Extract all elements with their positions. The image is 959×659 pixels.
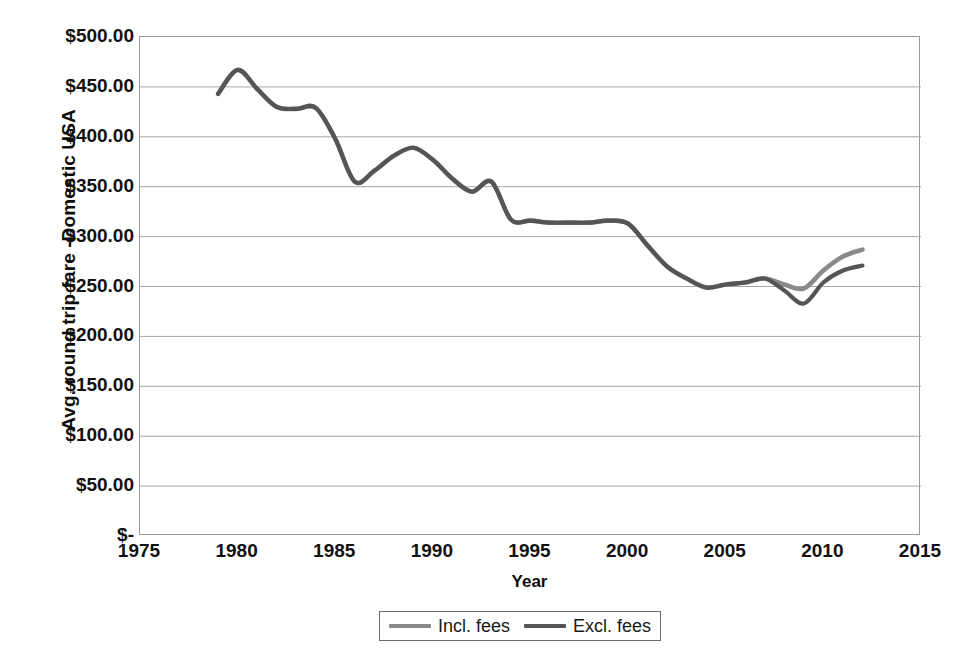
x-axis-tick-label: 1985 xyxy=(289,540,379,562)
chart-container: Avg. round trip fare -Domestic USA $-$50… xyxy=(0,0,959,659)
series-line-incl-fees xyxy=(218,70,862,289)
y-axis-tick-label: $150.00 xyxy=(16,374,134,396)
x-axis-tick-label: 2015 xyxy=(875,540,959,562)
legend-line-swatch xyxy=(524,624,566,628)
x-axis-tick-label: 1975 xyxy=(94,540,184,562)
y-axis-tick-label: $500.00 xyxy=(16,25,134,47)
y-axis-tick-label: $350.00 xyxy=(16,175,134,197)
x-axis-tick-label: 1995 xyxy=(485,540,575,562)
x-axis-tick-label: 2000 xyxy=(582,540,672,562)
x-axis-tick-label: 2005 xyxy=(680,540,770,562)
y-axis-tick-label: $50.00 xyxy=(16,474,134,496)
x-axis-tick-label: 1990 xyxy=(387,540,477,562)
legend-label: Excl. fees xyxy=(573,616,651,637)
legend-line-swatch xyxy=(389,624,431,628)
x-axis-tick-label: 1980 xyxy=(192,540,282,562)
y-axis-tick-label: $250.00 xyxy=(16,275,134,297)
y-axis-tick-label: $200.00 xyxy=(16,324,134,346)
chart-legend: Incl. feesExcl. fees xyxy=(379,611,661,641)
legend-entry[interactable]: Excl. fees xyxy=(524,616,651,637)
x-axis-tick-labels: 197519801985199019952000200520102015 xyxy=(0,540,959,574)
y-axis-tick-label: $400.00 xyxy=(16,125,134,147)
legend-entry[interactable]: Incl. fees xyxy=(389,616,510,637)
x-axis-title: Year xyxy=(139,572,920,592)
legend-label: Incl. fees xyxy=(438,616,510,637)
plot-svg xyxy=(140,37,921,536)
y-axis-tick-label: $450.00 xyxy=(16,75,134,97)
plot-area xyxy=(139,36,920,535)
x-axis-tick-label: 2010 xyxy=(777,540,867,562)
y-axis-tick-label: $100.00 xyxy=(16,424,134,446)
y-axis-tick-label: $300.00 xyxy=(16,225,134,247)
